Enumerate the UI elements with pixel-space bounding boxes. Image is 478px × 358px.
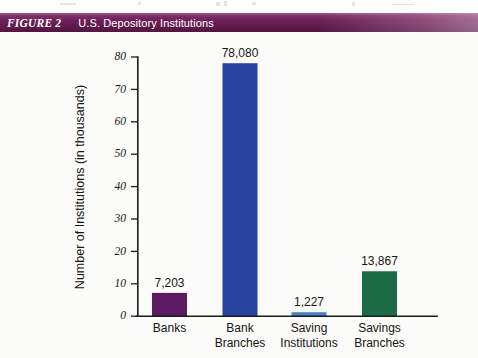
y-tick-label-30: 30 [114, 212, 127, 224]
scan-speck [216, 2, 220, 6]
bar-banks[interactable] [152, 293, 187, 316]
category-label-line: Branches [354, 336, 405, 350]
y-tick-label-60: 60 [115, 115, 127, 127]
scan-speck [224, 1, 227, 6]
y-tick-label-50: 50 [115, 147, 127, 159]
y-tick-label-40: 40 [115, 180, 127, 192]
bars-group [152, 63, 397, 316]
category-label-line: Banks [153, 321, 186, 335]
category-label-line: Institutions [280, 336, 337, 350]
scan-speck [352, 2, 355, 6]
bar-savings-branches[interactable] [362, 271, 397, 316]
value-label-saving-institutions: 1,227 [294, 295, 324, 309]
category-label-savings-branches: SavingsBranches [354, 321, 405, 350]
y-tick-label-0: 0 [120, 309, 126, 321]
value-label-savings-branches: 13,867 [361, 254, 398, 268]
y-axis: 01020304050607080 [114, 50, 138, 321]
category-label-line: Saving [291, 321, 328, 335]
category-label-line: Bank [226, 321, 254, 335]
scan-speck [392, 4, 414, 5]
figure-title: U.S. Depository Institutions [78, 17, 213, 29]
category-label-line: Branches [215, 336, 266, 350]
scan-speck [252, 2, 256, 5]
y-axis-title: Number of Institutions (in thousands) [73, 85, 87, 289]
category-labels-group: BanksBankBranchesSavingInstitutionsSavin… [153, 321, 405, 350]
category-label-line: Savings [358, 321, 401, 335]
figure-number-label: FIGURE 2 [7, 17, 61, 29]
chart-svg: 01020304050607080 7,20378,0801,22713,867… [0, 32, 478, 358]
category-label-banks: Banks [153, 321, 186, 335]
bar-bank-branches[interactable] [223, 63, 258, 316]
figure-header-band: FIGURE 2 U.S. Depository Institutions [0, 13, 478, 32]
value-label-bank-branches: 78,080 [222, 46, 259, 60]
category-label-saving-institutions: SavingInstitutions [280, 321, 337, 350]
y-tick-label-10: 10 [115, 277, 127, 289]
value-label-banks: 7,203 [154, 276, 184, 290]
scan-speck [60, 3, 76, 5]
bar-chart: 01020304050607080 7,20378,0801,22713,867… [0, 32, 478, 358]
y-tick-label-20: 20 [115, 245, 127, 257]
category-label-bank-branches: BankBranches [215, 321, 266, 350]
scan-noise-strip [0, 0, 478, 13]
scan-speck [138, 2, 141, 5]
value-labels-group: 7,20378,0801,22713,867 [154, 46, 398, 309]
y-tick-label-70: 70 [115, 83, 127, 95]
y-tick-label-80: 80 [115, 50, 127, 62]
